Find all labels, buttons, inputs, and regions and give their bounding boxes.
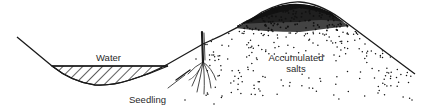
seedling-label: Seedling — [129, 95, 166, 105]
water-body — [52, 66, 168, 85]
salts-label-line1: Accumulated — [256, 52, 336, 63]
water-label: Water — [96, 53, 121, 63]
accumulated-salts-label: Accumulated salts — [256, 52, 336, 74]
salts-label-line2: salts — [256, 63, 336, 74]
salt-accumulation-diagram — [0, 0, 431, 111]
